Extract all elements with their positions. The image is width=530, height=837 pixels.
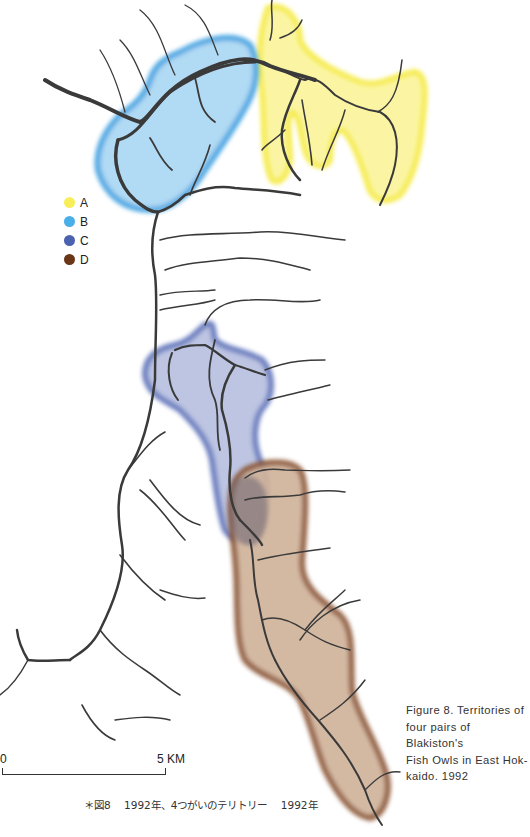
caption-line: Figure 8. Territories of [406,702,530,719]
caption-line: kaido. 1992 [406,768,530,785]
caption-jp-text: 1992年、4つがいのテリトリー [124,799,267,811]
scale-start-label: 0 [0,752,7,766]
japanese-caption: ＊図8 1992年、4つがいのテリトリー 1992年 [84,797,328,812]
scale-bar: 0 5 KM [0,752,170,782]
legend-label-d: D [80,253,89,267]
territory-d [230,463,388,819]
legend-label-a: A [80,196,88,210]
legend-label-b: B [80,215,88,229]
territory-legend: A B C D [64,193,89,269]
caption-line: Fish Owls in East Hok- [406,752,530,769]
legend-item-d: D [64,250,89,269]
legend-item-a: A [64,193,89,212]
legend-item-c: C [64,231,89,250]
brown-dot-icon [64,254,75,265]
yellow-dot-icon [64,197,75,208]
blue-dot-icon [64,235,75,246]
legend-item-b: B [64,212,89,231]
english-caption: Figure 8. Territories of four pairs of B… [406,702,530,785]
caption-line: four pairs of Blakiston's [406,719,530,752]
legend-label-c: C [80,234,89,248]
figure-marker: ＊図8 [84,799,111,811]
light-blue-dot-icon [64,216,75,227]
scale-end-label: 5 KM [157,752,185,766]
caption-jp-year: 1992年 [281,799,318,811]
scale-bar-line [2,768,166,775]
